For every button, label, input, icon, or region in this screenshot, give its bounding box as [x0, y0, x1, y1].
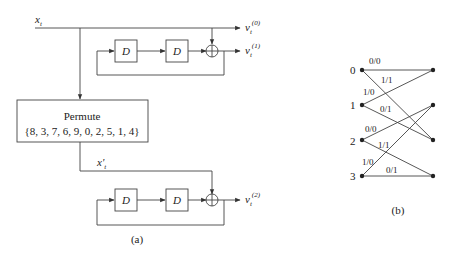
encoder-diagram: xt vt(0) D D vt(1): [17, 13, 261, 246]
caption-b: (b): [392, 204, 405, 217]
turbo-encoder-figure: xt vt(0) D D vt(1): [0, 0, 450, 253]
upper-rsc-encoder: D D vt(1): [97, 28, 261, 75]
edge-label: 0/1: [386, 165, 398, 175]
output-v0-label: vt(0): [245, 19, 261, 36]
output-v2-label: vt(2): [245, 191, 261, 208]
input-label: xt: [34, 13, 43, 28]
edge-label: 1/1: [381, 75, 393, 85]
edge-label: 1/1: [378, 140, 390, 150]
permute-interleaver: Permute {8, 3, 7, 6, 9, 0, 2, 5, 1, 4}: [17, 100, 148, 142]
edge-label: 0/1: [380, 104, 392, 114]
edge-label: 0/0: [365, 124, 377, 134]
lower-rsc-encoder: D D vt(2): [97, 189, 261, 225]
interleaved-input-label: x't: [96, 156, 107, 171]
output-v1-label: vt(1): [245, 42, 261, 59]
permute-sequence: {8, 3, 7, 6, 9, 0, 2, 5, 1, 4}: [24, 125, 139, 137]
xor-adder-1: [206, 45, 218, 57]
edge-label: 1/0: [362, 157, 374, 167]
xor-adder-2: [206, 194, 218, 206]
edge-label: 1/0: [363, 87, 375, 97]
caption-a: (a): [131, 233, 144, 246]
delay-label: D: [121, 194, 130, 206]
delay-label: D: [172, 194, 181, 206]
state-label-0: 0: [350, 64, 356, 76]
delay-label: D: [121, 45, 130, 57]
state-label-1: 1: [350, 99, 356, 111]
state-label-2: 2: [350, 135, 356, 147]
state-label-3: 3: [350, 170, 356, 182]
edge-label: 0/0: [369, 56, 381, 66]
trellis-diagram: 0 1 2 3 0/0 1/1 1/0 0/1 0/0 1/1 1/0 0/1 …: [350, 56, 435, 217]
delay-label: D: [172, 45, 181, 57]
permute-title: Permute: [64, 110, 101, 122]
